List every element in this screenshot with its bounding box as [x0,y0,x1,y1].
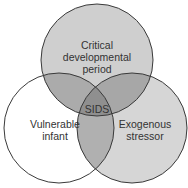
label-vulnerable-infant: Vulnerable infant [20,118,90,142]
label-line: Exogenous [110,118,180,130]
label-exogenous-stressor: Exogenous stressor [110,118,180,142]
label-line: stressor [110,130,180,142]
label-critical-period: Critical developmental period [57,39,137,75]
label-sids: SIDS [80,103,114,115]
label-line: Vulnerable [20,118,90,130]
label-line: period [57,63,137,75]
label-line: infant [20,130,90,142]
label-line: Critical [57,39,137,51]
label-line: developmental [57,51,137,63]
venn-diagram: Critical developmental period Vulnerable… [0,0,188,188]
venn-graphic [0,0,188,188]
